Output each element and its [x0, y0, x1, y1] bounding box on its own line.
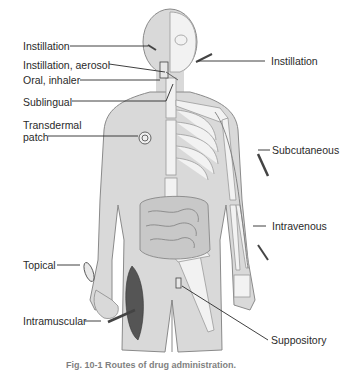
- label-transdermal-patch: patch: [23, 131, 49, 143]
- label-instillation-aerosol: Instillation, aerosol: [23, 59, 110, 71]
- label-suppository: Suppository: [271, 334, 326, 346]
- label-transdermal: Transdermal: [23, 119, 82, 131]
- label-subcutaneous: Subcutaneous: [272, 144, 339, 156]
- label-intravenous: Intravenous: [272, 220, 327, 232]
- figure-caption: Fig. 10-1 Routes of drug administration.: [66, 360, 236, 370]
- label-topical: Topical: [23, 259, 56, 271]
- label-oral-inhaler: Oral, inhaler: [23, 74, 80, 86]
- label-instillation-ear: Instillation: [271, 55, 318, 67]
- label-intramuscular: Intramuscular: [23, 315, 87, 327]
- label-instillation-eye: Instillation: [23, 40, 70, 52]
- intestines: [140, 196, 210, 259]
- label-sublingual: Sublingual: [23, 96, 72, 108]
- routes-figure: Instillation Instillation, aerosol Oral,…: [0, 0, 350, 370]
